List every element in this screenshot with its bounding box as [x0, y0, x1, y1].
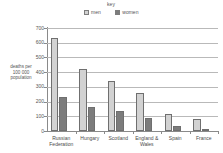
bar-women — [202, 129, 210, 131]
y-tick-label: 0 — [28, 129, 44, 134]
bar-women — [173, 126, 181, 131]
bar-men — [136, 93, 144, 131]
y-tick-label: 500 — [28, 55, 44, 60]
bar-women — [88, 107, 96, 131]
bar-men — [79, 69, 87, 131]
y-tick-label: 300 — [28, 84, 44, 89]
x-tick-mark — [190, 131, 191, 134]
gridline — [47, 43, 218, 44]
gridline — [47, 116, 218, 117]
bar-men — [193, 119, 201, 132]
y-tick-label: 200 — [28, 99, 44, 104]
chart-legend: key men women — [0, 1, 222, 21]
y-axis-title-line3: population — [1, 75, 41, 81]
x-tick-mark — [76, 131, 77, 134]
bar-group — [108, 28, 124, 131]
legend-title: key — [0, 1, 222, 7]
bar-group — [79, 28, 95, 131]
x-category-label: France — [186, 135, 223, 141]
x-tick-mark — [161, 131, 162, 134]
gridline — [47, 102, 218, 103]
legend-items: men women — [0, 9, 222, 15]
y-tick-mark — [44, 131, 47, 132]
bar-group — [165, 28, 181, 131]
legend-label-men: men — [91, 9, 101, 15]
gridline — [47, 57, 218, 58]
bar-women — [145, 118, 153, 131]
gridline — [47, 28, 218, 29]
legend-label-women: women — [122, 9, 138, 15]
x-category-label-line: Wales — [129, 141, 166, 147]
plot-area — [47, 28, 218, 131]
legend-item-men: men — [84, 9, 101, 15]
legend-item-women: women — [115, 9, 139, 15]
y-tick-label: 400 — [28, 70, 44, 75]
gridline — [47, 72, 218, 73]
women-swatch-icon — [115, 10, 120, 15]
x-category-label-line: Federation — [43, 141, 80, 147]
bar-women — [59, 97, 67, 131]
bar-men — [51, 38, 59, 131]
bar-women — [116, 111, 124, 131]
x-category-label-line: France — [186, 135, 223, 141]
bar-group — [51, 28, 67, 131]
men-swatch-icon — [84, 10, 89, 15]
y-tick-label: 100 — [28, 114, 44, 119]
x-tick-mark — [104, 131, 105, 134]
x-tick-mark — [218, 131, 219, 134]
y-tick-label: 700 — [28, 26, 44, 31]
bar-chart: key men women deaths per 100 000 populat… — [0, 0, 222, 153]
bar-group — [136, 28, 152, 131]
bar-group — [193, 28, 209, 131]
gridline — [47, 87, 218, 88]
y-tick-label: 600 — [28, 40, 44, 45]
bar-men — [108, 81, 116, 131]
bar-men — [165, 114, 173, 131]
x-tick-mark — [133, 131, 134, 134]
